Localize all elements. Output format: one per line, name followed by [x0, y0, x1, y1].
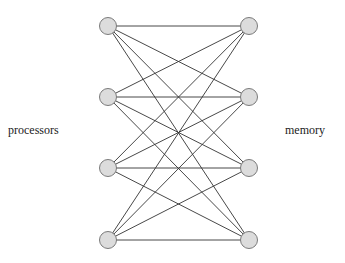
memory-node-m1	[241, 18, 258, 35]
processors-label: processors	[8, 123, 59, 137]
connection-edges	[108, 26, 249, 240]
processor-node-p4	[100, 232, 117, 249]
memory-node-m2	[241, 89, 258, 106]
crossbar-diagram: processors memory	[0, 0, 345, 263]
processor-node-p2	[100, 89, 117, 106]
memory-node-m3	[241, 160, 258, 177]
memory-node-m4	[241, 232, 258, 249]
memory-label: memory	[285, 123, 325, 137]
processor-node-p3	[100, 160, 117, 177]
processor-node-p1	[100, 18, 117, 35]
